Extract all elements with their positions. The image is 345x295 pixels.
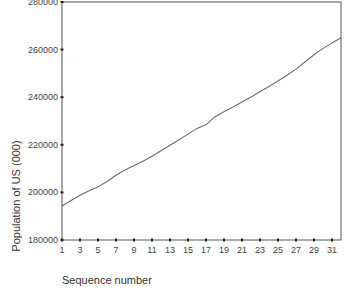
- x-tick-label: 7: [113, 245, 118, 255]
- x-tick-mark: [313, 239, 315, 242]
- x-tick-label: 29: [309, 245, 319, 255]
- x-tick-mark: [115, 239, 117, 242]
- x-axis-label: Sequence number: [62, 274, 152, 286]
- y-tick-label: 280000: [28, 0, 58, 7]
- x-tick-label: 5: [95, 245, 100, 255]
- data-series: [62, 38, 341, 206]
- x-tick-label: 1: [59, 245, 64, 255]
- x-tick-label: 3: [77, 245, 82, 255]
- y-tick-label: 240000: [28, 92, 58, 102]
- x-tick-mark: [295, 239, 297, 242]
- x-tick-label: 11: [147, 245, 156, 255]
- y-tick-mark: [61, 49, 64, 51]
- x-tick-label: 31: [327, 245, 337, 255]
- line-chart: 180000200000220000240000260000280000 135…: [0, 0, 345, 295]
- y-tick-mark: [61, 144, 64, 146]
- x-tick-mark: [205, 239, 207, 242]
- y-tick-label: 180000: [28, 235, 58, 245]
- y-tick-label: 220000: [28, 140, 58, 150]
- y-axis-label: Population of US (000): [10, 140, 22, 251]
- x-tick-label: 23: [255, 245, 265, 255]
- x-tick-mark: [277, 239, 279, 242]
- x-tick-mark: [187, 239, 189, 242]
- y-tick-mark: [61, 191, 64, 193]
- plot-border: [62, 2, 341, 240]
- x-tick-mark: [79, 239, 81, 242]
- population-line: [62, 38, 341, 206]
- y-tick-label: 260000: [28, 45, 58, 55]
- x-tick-label: 19: [219, 245, 229, 255]
- x-tick-mark: [151, 239, 153, 242]
- x-tick-mark: [223, 239, 225, 242]
- x-tick-mark: [241, 239, 243, 242]
- x-axis: 135791113151719212325272931: [59, 239, 337, 256]
- x-tick-mark: [169, 239, 171, 242]
- x-tick-mark: [259, 239, 261, 242]
- x-tick-mark: [61, 239, 63, 242]
- x-tick-label: 27: [291, 245, 301, 255]
- x-tick-label: 21: [237, 245, 247, 255]
- x-tick-label: 9: [131, 245, 136, 255]
- y-tick-mark: [61, 96, 64, 98]
- x-tick-label: 25: [273, 245, 283, 255]
- x-tick-mark: [331, 239, 333, 242]
- y-tick-mark: [61, 1, 64, 3]
- y-axis: 180000200000220000240000260000280000: [28, 0, 64, 245]
- x-tick-mark: [97, 239, 99, 242]
- plot-frame: [62, 2, 341, 240]
- y-tick-label: 200000: [28, 187, 58, 197]
- x-tick-label: 17: [201, 245, 211, 255]
- x-tick-label: 13: [165, 245, 175, 255]
- x-tick-label: 15: [183, 245, 193, 255]
- x-tick-mark: [133, 239, 135, 242]
